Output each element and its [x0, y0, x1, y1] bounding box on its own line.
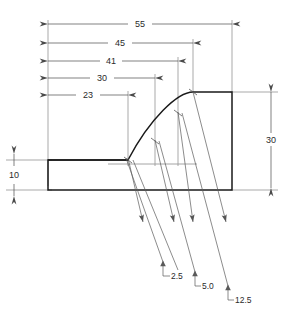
drawing-canvas: 55 45 41 30 23 30 10 2.5 5.0 12.5	[0, 0, 287, 316]
dimension-label-41: 41	[106, 56, 116, 66]
dimension-label-23: 23	[83, 90, 93, 100]
dimension-label-30-horizontal: 30	[97, 73, 107, 83]
dimension-label-45: 45	[115, 38, 125, 48]
technical-drawing-view: 55 45 41 30 23 30 10 2.5 5.0 12.5	[0, 0, 287, 316]
canvas-background	[0, 0, 287, 316]
leader-label-2-5: 2.5	[171, 271, 183, 281]
leader-label-5-0: 5.0	[202, 281, 214, 291]
dimension-label-55: 55	[135, 19, 145, 29]
dimension-label-30-vertical: 30	[266, 135, 276, 145]
leader-label-12-5: 12.5	[235, 295, 252, 305]
dimension-label-10: 10	[9, 170, 19, 180]
